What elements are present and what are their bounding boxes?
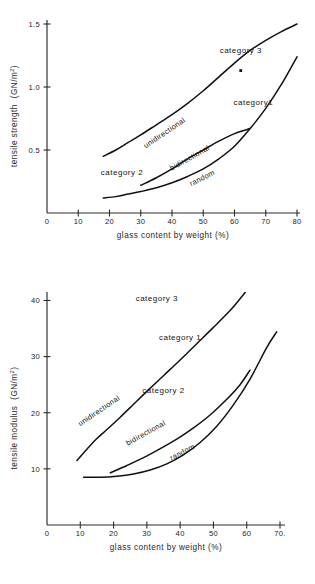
y-tick-label: 20 xyxy=(31,409,40,418)
y-tick-label: 40 xyxy=(31,296,40,305)
label-bidirectional: bidirectional xyxy=(124,418,167,447)
y-axis-title-unit-open: (GN/m xyxy=(10,72,19,98)
tensile-modulus-chart: 10203040 010203040506070. category 3cate… xyxy=(0,292,315,584)
x-tick-label: 30 xyxy=(142,529,151,538)
x-tick-label: 60 xyxy=(230,217,239,226)
y-axis-title-main: tensile strength xyxy=(10,104,19,167)
label-category-1: category 1 xyxy=(159,333,201,342)
x-tick-label: 80 xyxy=(292,217,301,226)
x-axis-title: glass content by weight (%) xyxy=(110,543,222,552)
y-axis-title-main: tensile modulus xyxy=(10,406,19,470)
annotation-group: category 3category1category 2unidirectio… xyxy=(101,46,273,188)
label-unidirectional: unidirectional xyxy=(142,116,187,151)
x-tick-label: 10 xyxy=(74,217,83,226)
x-tick-label: 40 xyxy=(167,217,176,226)
y-axis-title: tensile strength(GN/m2) xyxy=(9,65,19,167)
x-tick-label: 70 xyxy=(261,217,270,226)
x-axis-title: glass content by weight (%) xyxy=(117,231,229,240)
x-tick-label: 50 xyxy=(199,217,208,226)
y-tick-label: 10 xyxy=(31,465,40,474)
svg-text:tensile modulus(GN/m2): tensile modulus(GN/m2) xyxy=(9,367,19,470)
x-tick-label: 0 xyxy=(45,529,50,538)
x-tick-label: 20 xyxy=(105,217,114,226)
x-tick-label: 70. xyxy=(274,529,285,538)
tensile-modulus-svg: 10203040 010203040506070. category 3cate… xyxy=(0,292,315,584)
y-tick-label: 1.0 xyxy=(29,83,40,92)
label-category-3: category 3 xyxy=(220,46,262,55)
tensile-strength-svg: 0.51.01.5 01020304050607080 category 3ca… xyxy=(0,0,315,292)
x-tick-label: 40 xyxy=(176,529,185,538)
x-tick-group: 01020304050607080 xyxy=(45,210,302,227)
label-category-3: category 3 xyxy=(136,294,178,303)
x-tick-label: 60 xyxy=(242,529,251,538)
label-category-1: category1 xyxy=(233,98,273,107)
curve-unidirectional xyxy=(77,292,247,460)
label-category-2: category 2 xyxy=(142,386,184,395)
y-axis-title-unit-close: ) xyxy=(10,367,19,370)
y-tick-label: 30 xyxy=(31,352,40,361)
category-3-data-point xyxy=(239,69,242,72)
annotation-group: category 3category 1category 2unidirecti… xyxy=(76,294,201,463)
x-tick-group: 010203040506070. xyxy=(45,522,286,539)
x-tick-label: 30 xyxy=(136,217,145,226)
label-category-2: category 2 xyxy=(101,168,143,177)
y-axis-title-unit-open: (GN/m xyxy=(10,373,19,399)
marker-group xyxy=(239,69,242,72)
svg-text:tensile strength(GN/m2): tensile strength(GN/m2) xyxy=(9,65,19,167)
x-tick-label: 10 xyxy=(76,529,85,538)
y-tick-label: 1.5 xyxy=(29,20,40,29)
x-tick-label: 50 xyxy=(209,529,218,538)
y-axis-title: tensile modulus(GN/m2) xyxy=(9,367,19,470)
tensile-strength-chart: 0.51.01.5 01020304050607080 category 3ca… xyxy=(0,0,315,292)
x-tick-label: 0 xyxy=(45,217,50,226)
curve-unidirectional xyxy=(103,24,297,156)
label-random: random xyxy=(168,442,196,462)
y-tick-label: 0.5 xyxy=(29,146,40,155)
y-axis-title-unit-close: ) xyxy=(10,65,19,68)
label-random: random xyxy=(188,168,216,188)
x-tick-label: 20 xyxy=(109,529,118,538)
